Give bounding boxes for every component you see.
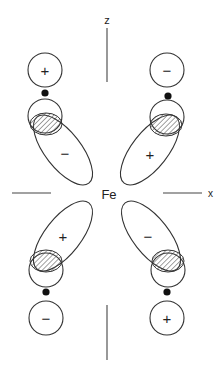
orbital-group-bottom-right: − +: [111, 192, 191, 335]
overlap-region-hatched: [150, 114, 182, 136]
d-orbital-sign: −: [61, 145, 70, 162]
orbital-diagram: z x Fe + − − + + −: [0, 0, 218, 368]
ligand-atom-dot: [41, 89, 48, 96]
orbital-group-top-right: − +: [110, 53, 190, 194]
overlap-region-hatched: [30, 250, 62, 272]
orbital-group-top-left: + −: [23, 53, 103, 194]
p-orbital-sign: +: [41, 62, 50, 79]
p-orbital-sign: −: [163, 62, 172, 79]
orbital-group-bottom-left: + −: [23, 192, 103, 335]
d-orbital-sign: −: [144, 228, 153, 245]
overlap-region-hatched: [30, 113, 62, 135]
ligand-atom-dot: [42, 288, 49, 295]
ligand-atom-dot: [163, 288, 170, 295]
ligand-atom-dot: [164, 92, 171, 99]
d-orbital-sign: +: [146, 146, 155, 163]
d-orbital-sign: +: [59, 228, 68, 245]
z-axis-label: z: [104, 14, 110, 26]
fe-atom-label: Fe: [101, 187, 116, 202]
p-orbital-sign: +: [163, 310, 172, 327]
x-axis-label: x: [208, 188, 213, 199]
overlap-region-hatched: [152, 250, 184, 272]
p-orbital-sign: −: [42, 310, 51, 327]
